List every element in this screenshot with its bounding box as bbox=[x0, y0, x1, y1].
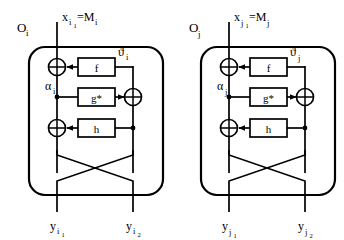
g-star-block-label-i: g* bbox=[91, 92, 102, 104]
g-star-block-label-j: g* bbox=[263, 92, 274, 104]
feedback-label-theta-j: ϑ bbox=[290, 45, 296, 59]
xor-bottom-left-i bbox=[49, 120, 66, 137]
feedback-label-theta-i: ϑ bbox=[118, 45, 124, 59]
xor-right-mid-j bbox=[297, 89, 314, 106]
input-label-sub-j: j bbox=[240, 18, 243, 28]
feedback-label-sub-j: j bbox=[297, 53, 300, 63]
f-block-label-i: f bbox=[95, 62, 99, 74]
h-tap-node-j bbox=[303, 126, 308, 131]
diagram-canvas: f g* h bbox=[0, 0, 344, 240]
block-diagram-svg: f g* h bbox=[0, 0, 344, 240]
alpha-label-a-j: α bbox=[217, 79, 224, 93]
xor-top-left-j bbox=[221, 59, 238, 76]
output-left-subsub-j: 1 bbox=[234, 232, 237, 239]
xor-bottom-left-j bbox=[221, 120, 238, 137]
h-block-label-j: h bbox=[266, 123, 272, 135]
output-right-sub-j: j bbox=[304, 227, 307, 237]
diagram-background bbox=[0, 0, 344, 240]
oracle-label-sub-j: j bbox=[197, 29, 201, 39]
xor-top-left-i bbox=[49, 59, 66, 76]
alpha-label-sub-j: j bbox=[224, 87, 227, 97]
output-left-y-i: y bbox=[50, 219, 56, 233]
input-label-x-i: x bbox=[62, 10, 68, 24]
oracle-label-text-i: O bbox=[17, 20, 26, 35]
output-right-y-j: y bbox=[298, 219, 304, 233]
input-label-x-j: x bbox=[234, 10, 240, 24]
input-label-eq-sub-j: j bbox=[266, 18, 269, 28]
input-label-eq-j: =M bbox=[249, 10, 267, 24]
output-right-subsub-i: 2 bbox=[138, 231, 141, 238]
output-left-y-j: y bbox=[222, 219, 228, 233]
xor-right-mid-i bbox=[125, 89, 142, 106]
output-left-subsub-i: 1 bbox=[62, 231, 65, 238]
output-right-subsub-j: 2 bbox=[310, 232, 313, 239]
output-right-y-i: y bbox=[126, 219, 132, 233]
h-tap-node-i bbox=[131, 126, 136, 131]
h-block-label-i: h bbox=[94, 123, 100, 135]
output-left-sub-j: j bbox=[228, 227, 231, 237]
oracle-label-text-j: O bbox=[189, 20, 198, 35]
input-label-eq-i: =M bbox=[77, 10, 95, 24]
f-block-label-j: f bbox=[267, 62, 271, 74]
alpha-label-a-i: α bbox=[45, 79, 52, 93]
